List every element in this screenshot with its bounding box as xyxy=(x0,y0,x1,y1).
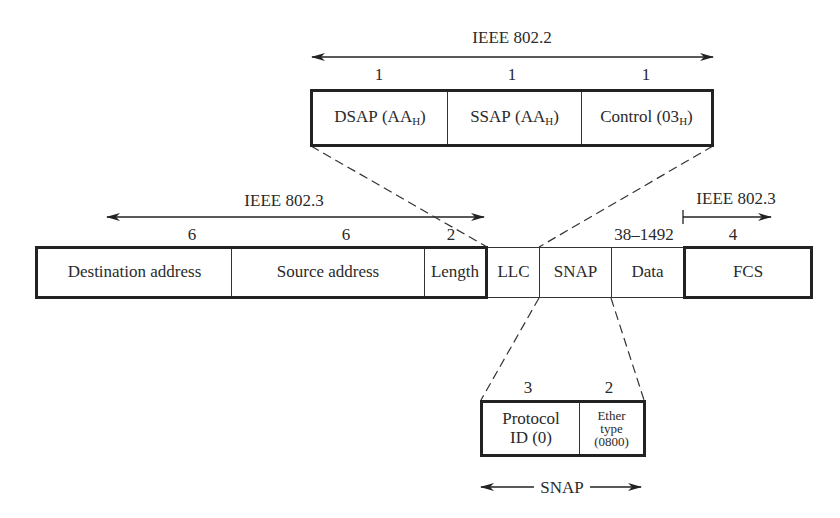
fcs-box: FCS xyxy=(683,246,813,299)
llc-header-box: DSAP (AAH) SSAP (AAH) Control (03H) xyxy=(310,89,714,147)
length-size: 2 xyxy=(447,226,456,243)
llc-title: IEEE 802.2 xyxy=(472,29,551,46)
dest-size: 6 xyxy=(188,226,197,243)
data-size: 38–1492 xyxy=(614,226,674,243)
length-field: Length xyxy=(424,249,485,296)
snap-header-box: Protocol ID (0) Ether type (0800) xyxy=(480,400,646,457)
ethertype-field: Ether type (0800) xyxy=(579,403,643,454)
ethertype-size: 2 xyxy=(605,379,614,396)
frame-header-box: Destination address Source address Lengt… xyxy=(35,246,488,299)
data-field: Data xyxy=(611,248,683,297)
dsap-size: 1 xyxy=(375,66,384,83)
snap-title: SNAP xyxy=(540,479,583,496)
destination-address-field: Destination address xyxy=(38,249,231,296)
llc-field: LLC xyxy=(488,248,539,297)
header-title: IEEE 802.3 xyxy=(244,192,323,209)
trailer-title: IEEE 802.3 xyxy=(696,190,775,207)
fcs-field: FCS xyxy=(686,249,810,296)
ssap-size: 1 xyxy=(508,66,517,83)
ssap-field: SSAP (AAH) xyxy=(447,92,581,144)
fcs-size: 4 xyxy=(729,226,738,243)
payload-box: LLC SNAP Data xyxy=(488,247,683,298)
src-size: 6 xyxy=(342,226,351,243)
control-field: Control (03H) xyxy=(581,92,711,144)
snap-field: SNAP xyxy=(539,248,611,297)
control-size: 1 xyxy=(642,66,651,83)
dsap-field: DSAP (AAH) xyxy=(313,92,447,144)
protocol-id-field: Protocol ID (0) xyxy=(483,403,579,454)
protocol-id-size: 3 xyxy=(524,379,533,396)
source-address-field: Source address xyxy=(231,249,424,296)
